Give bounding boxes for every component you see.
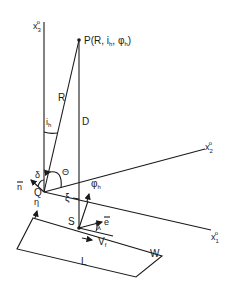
label-n: n	[17, 182, 22, 192]
label-xi: ξ	[65, 192, 70, 204]
fault-top-edge-extension	[79, 228, 113, 236]
angle-theta-arc	[50, 172, 61, 188]
label-e: e	[104, 217, 109, 227]
label-eta: η	[34, 197, 39, 207]
label-w: W	[150, 248, 160, 259]
x2-axis-label: x2o	[205, 140, 214, 154]
label-d: D	[82, 116, 89, 127]
label-theta: Θ	[62, 167, 69, 177]
angle-ih-arc	[44, 132, 57, 133]
angle-delta-arc	[38, 180, 44, 186]
fault-plane-rectangle	[17, 218, 162, 277]
label-vf: Vf	[98, 236, 107, 248]
fault-geometry-diagram: x3o P(R, ih, φh) R D ih Θ x2o x1o δ n Q …	[0, 0, 228, 297]
label-delta: δ	[35, 170, 40, 180]
label-lambda: λ	[97, 223, 101, 232]
label-s: S	[68, 216, 75, 227]
label-phi: φh	[91, 178, 101, 190]
label-r: R	[58, 92, 65, 103]
vf-arrow	[82, 238, 92, 240]
label-ih: ih	[46, 117, 51, 128]
x1-axis-label: x1o	[211, 230, 220, 244]
phi-arrow	[87, 194, 89, 201]
label-l: L	[81, 256, 87, 267]
x3-axis-label: x3o	[33, 19, 42, 33]
point-p-label: P(R, ih, φh)	[84, 35, 131, 47]
eta-arrow	[35, 211, 37, 218]
strike-ref-line	[79, 201, 88, 228]
